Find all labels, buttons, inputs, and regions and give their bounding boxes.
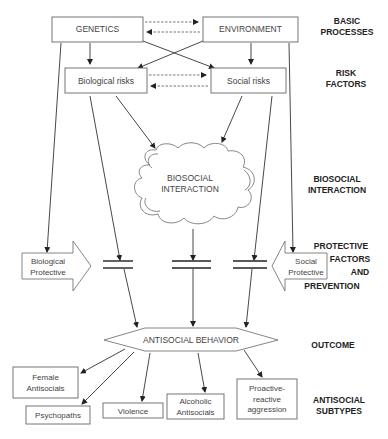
psychopaths-box: Psychopaths	[26, 406, 90, 424]
genetics-to-bio-protective-arrow	[47, 43, 61, 252]
svg-text:Protective: Protective	[30, 268, 66, 277]
left-bar-to-outcome-arrow	[124, 269, 137, 327]
social-risk-to-cloud-arrow	[222, 96, 242, 142]
svg-text:reactive: reactive	[253, 395, 282, 404]
biosocial-interaction-cloud: BIOSOCIAL INTERACTION	[135, 143, 255, 224]
bio-risk-to-bar-arrow	[90, 96, 120, 260]
stage-antisocial-subtypes: ANTISOCIAL	[313, 395, 365, 405]
bio-risk-to-cloud-arrow	[116, 96, 155, 148]
outcome-to-psychopaths-arrow	[82, 352, 134, 404]
environment-to-social-protective-arrow	[289, 43, 293, 252]
antisocial-behavior-hexagon: ANTISOCIAL BEHAVIOR	[104, 328, 278, 351]
biosocial-model-diagram: GENETICS ENVIRONMENT Biological risks So…	[0, 0, 388, 439]
stage-basic-processes: BASIC	[334, 16, 360, 26]
biological-protective-arrow: Biological Protective	[22, 241, 91, 291]
svg-text:PROCESSES: PROCESSES	[321, 27, 374, 37]
svg-text:ENVIRONMENT: ENVIRONMENT	[219, 24, 282, 34]
svg-text:Social risks: Social risks	[227, 76, 270, 86]
svg-text:SUBTYPES: SUBTYPES	[316, 406, 362, 416]
svg-text:Social: Social	[295, 257, 317, 266]
svg-text:Psychopaths: Psychopaths	[35, 411, 81, 420]
svg-text:Antisocials: Antisocials	[26, 384, 64, 393]
social-risk-to-bar-arrow	[254, 96, 272, 260]
stage-biosocial-interaction: BIOSOCIAL	[313, 174, 360, 184]
svg-text:FACTORS: FACTORS	[326, 79, 367, 89]
right-bar-to-outcome-arrow	[246, 269, 252, 327]
genetics-box: GENETICS	[52, 17, 143, 42]
alcoholic-antisocials-box: Alcoholic Antisocials	[167, 394, 224, 419]
stage-outcome: OUTCOME	[311, 340, 355, 350]
outcome-to-proactive-arrow	[244, 350, 262, 377]
outcome-to-violence-arrow	[142, 353, 150, 401]
svg-text:INTERACTION: INTERACTION	[161, 184, 219, 194]
svg-text:INTERACTION: INTERACTION	[308, 185, 366, 195]
svg-text:Alcoholic: Alcoholic	[179, 397, 211, 406]
social-risks-box: Social risks	[211, 68, 286, 93]
violence-box: Violence	[103, 403, 163, 418]
blocking-bars	[103, 261, 267, 268]
proactive-reactive-aggression-box: Proactive- reactive aggression	[237, 379, 297, 419]
svg-text:FACTORS: FACTORS	[330, 254, 371, 264]
svg-text:Female: Female	[32, 373, 59, 382]
svg-text:GENETICS: GENETICS	[76, 24, 120, 34]
svg-text:PREVENTION: PREVENTION	[304, 281, 359, 291]
genetics-to-social-risk-arrow	[143, 41, 214, 68]
svg-text:Biological risks: Biological risks	[78, 76, 134, 86]
svg-text:aggression: aggression	[247, 405, 286, 414]
outcome-to-female-arrow	[81, 349, 125, 373]
svg-text:ANTISOCIAL BEHAVIOR: ANTISOCIAL BEHAVIOR	[143, 335, 239, 345]
female-antisocials-box: Female Antisocials	[13, 367, 78, 398]
svg-text:BIOSOCIAL: BIOSOCIAL	[167, 173, 213, 183]
svg-text:Protective: Protective	[288, 268, 324, 277]
stage-labels: BASIC PROCESSES RISK FACTORS BIOSOCIAL I…	[304, 16, 373, 416]
stage-risk-factors: RISK	[336, 68, 357, 78]
outcome-to-alcoholic-arrow	[198, 353, 205, 392]
svg-text:AND: AND	[351, 267, 369, 277]
svg-text:Proactive-: Proactive-	[249, 384, 285, 393]
svg-text:Antisocials: Antisocials	[176, 408, 214, 417]
environment-to-bio-risk-arrow	[138, 41, 203, 68]
biological-risks-box: Biological risks	[65, 68, 147, 93]
svg-text:Violence: Violence	[118, 407, 149, 416]
svg-text:Biological: Biological	[31, 257, 65, 266]
environment-box: ENVIRONMENT	[203, 17, 298, 42]
stage-protective-factors: PROTECTIVE	[314, 241, 369, 251]
